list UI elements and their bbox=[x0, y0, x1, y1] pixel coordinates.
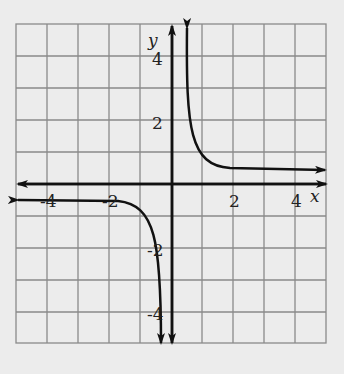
y-tick-neg4: -4 bbox=[147, 306, 164, 323]
x-tick-2: 2 bbox=[229, 193, 240, 210]
y-tick-4: 4 bbox=[152, 51, 163, 68]
right-branch bbox=[187, 28, 325, 170]
y-tick-neg2: -2 bbox=[147, 242, 164, 259]
hyperbola-graph bbox=[0, 0, 344, 374]
y-axis-label: y bbox=[148, 32, 158, 49]
x-tick-4: 4 bbox=[291, 193, 302, 210]
axes bbox=[18, 26, 326, 343]
x-axis-label: x bbox=[310, 188, 320, 205]
x-tick-neg2: -2 bbox=[102, 193, 119, 210]
y-tick-2: 2 bbox=[152, 115, 163, 132]
x-tick-neg4: -4 bbox=[40, 193, 57, 210]
